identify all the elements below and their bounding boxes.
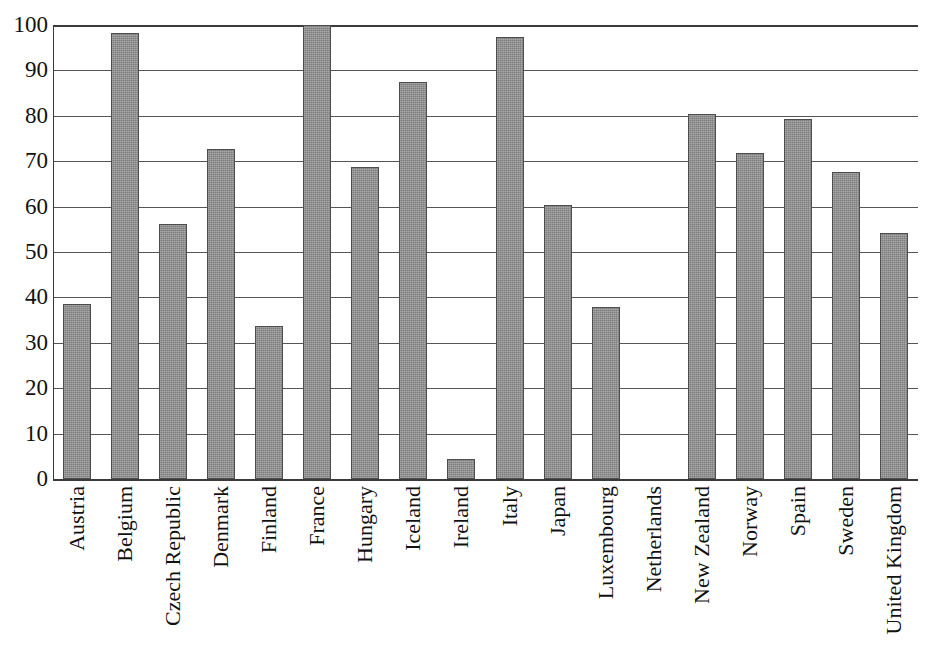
x-tick-label-text: United Kingdom [883, 486, 905, 635]
bar [255, 326, 283, 479]
bar [159, 224, 187, 479]
x-tick-label: Czech Republic [158, 486, 188, 662]
bar-chart: 1009080706050403020100 AustriaBelgiumCze… [0, 0, 932, 662]
x-tick-label-text: Czech Republic [162, 486, 184, 626]
x-tick-label-text: Iceland [402, 486, 424, 551]
bar [303, 25, 331, 479]
y-tick-label: 0 [2, 467, 48, 490]
x-tick-label: Luxembourg [591, 486, 621, 662]
y-tick-label: 30 [2, 331, 48, 354]
bar [207, 149, 235, 479]
x-tick-label-text: New Zealand [691, 486, 713, 604]
x-tick-label: Denmark [206, 486, 236, 662]
x-tick-label-text: Norway [739, 486, 761, 557]
y-tick-label: 40 [2, 285, 48, 308]
x-tick-label-text: Finland [258, 486, 280, 553]
bar [447, 459, 475, 479]
x-tick-label: Norway [735, 486, 765, 662]
y-tick-label: 10 [2, 422, 48, 445]
x-tick-label-text: Ireland [450, 486, 472, 548]
x-tick-label-text: Sweden [835, 486, 857, 556]
bar [496, 37, 524, 479]
x-tick-label-text: Hungary [354, 486, 376, 563]
bar [736, 153, 764, 479]
x-tick-label: New Zealand [687, 486, 717, 662]
y-tick-label: 100 [2, 13, 48, 36]
bar [111, 33, 139, 479]
x-tick-label: Iceland [398, 486, 428, 662]
y-axis: 1009080706050403020100 [0, 0, 48, 500]
x-tick-label-text: Luxembourg [595, 486, 617, 599]
x-tick-label: Netherlands [639, 486, 669, 662]
x-tick-label-text: France [306, 486, 328, 546]
y-tick-label: 20 [2, 376, 48, 399]
plot-area [53, 25, 918, 480]
x-tick-label-text: Denmark [210, 486, 232, 568]
x-tick-label-text: Belgium [114, 486, 136, 562]
x-axis: AustriaBelgiumCzech RepublicDenmarkFinla… [53, 486, 918, 662]
x-tick-label-text: Spain [787, 486, 809, 536]
bar [592, 307, 620, 479]
bar [880, 233, 908, 479]
x-tick-label: Belgium [110, 486, 140, 662]
x-tick-label: United Kingdom [879, 486, 909, 662]
x-tick-label-text: Italy [499, 486, 521, 526]
x-tick-label: Hungary [350, 486, 380, 662]
x-tick-label: Italy [495, 486, 525, 662]
y-tick-label: 60 [2, 195, 48, 218]
x-tick-label: Ireland [446, 486, 476, 662]
bar [784, 119, 812, 479]
x-tick-label-text: Japan [547, 486, 569, 536]
x-tick-label: France [302, 486, 332, 662]
bars [53, 25, 918, 480]
x-tick-label: Japan [543, 486, 573, 662]
bar [688, 114, 716, 479]
x-tick-label: Sweden [831, 486, 861, 662]
x-tick-label: Finland [254, 486, 284, 662]
bar [832, 172, 860, 479]
bar [63, 304, 91, 479]
x-tick-label-text: Netherlands [643, 486, 665, 592]
y-tick-label: 50 [2, 240, 48, 263]
bar [544, 205, 572, 479]
x-tick-label-text: Austria [66, 486, 88, 551]
bar [399, 82, 427, 479]
x-tick-label: Spain [783, 486, 813, 662]
y-tick-label: 70 [2, 149, 48, 172]
y-tick-label: 80 [2, 104, 48, 127]
bar [351, 167, 379, 479]
x-tick-label: Austria [62, 486, 92, 662]
y-tick-label: 90 [2, 58, 48, 81]
